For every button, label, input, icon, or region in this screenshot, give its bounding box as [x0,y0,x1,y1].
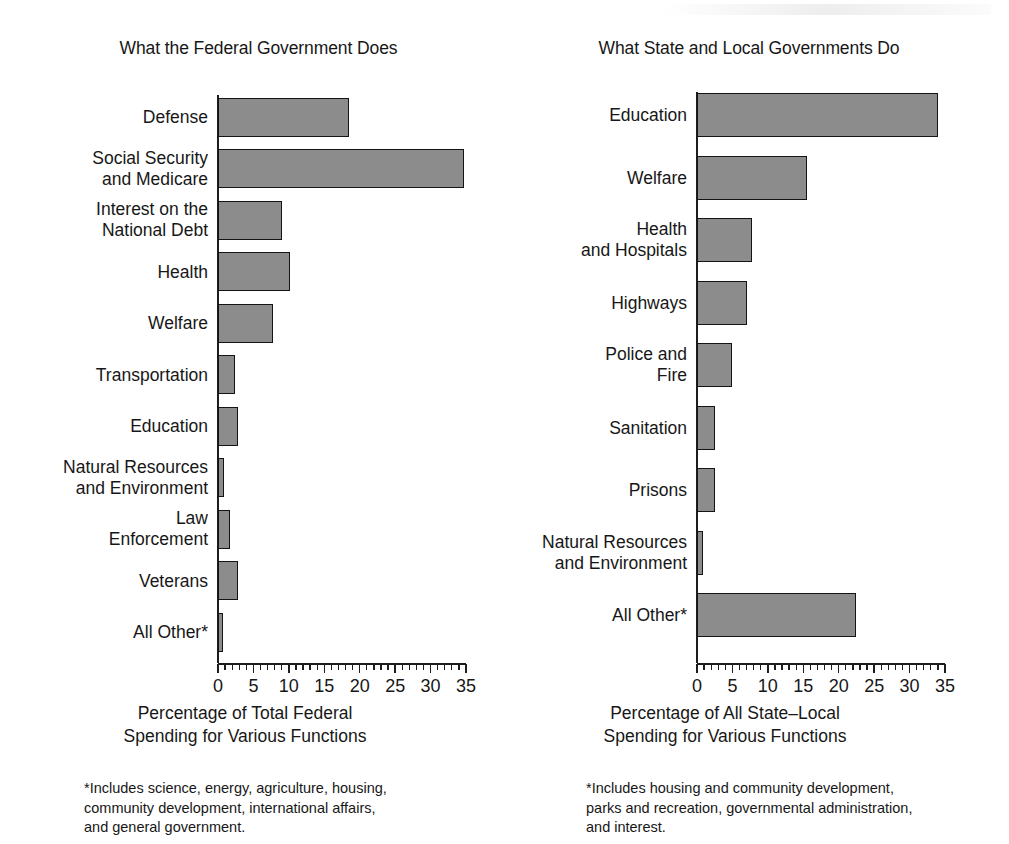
x-axis-minor-tick [444,664,445,670]
category-label: Prisons [437,480,687,501]
x-axis-minor-tick [817,664,818,670]
x-axis-tick-label: 5 [248,676,258,697]
x-axis-minor-tick [937,664,938,670]
bar [697,156,807,200]
x-axis-line [697,663,945,665]
federal-x-axis-title: Percentage of Total Federal Spending for… [60,702,430,748]
x-axis-major-tick [838,664,839,673]
x-axis-minor-tick [788,664,789,670]
bar [218,561,238,600]
category-label: Police and Fire [437,344,687,386]
x-axis-tick-label: 10 [758,676,778,697]
x-axis-minor-tick [416,664,417,670]
x-axis-major-tick [909,664,910,673]
category-label: Welfare [0,313,208,334]
bar [218,98,349,137]
x-axis-tick-label: 20 [829,676,849,697]
x-axis-minor-tick [366,664,367,670]
bar [697,531,703,575]
x-axis-line [218,663,466,665]
x-axis-major-tick [217,664,218,673]
x-axis-minor-tick [902,664,903,670]
x-axis-tick-label: 5 [727,676,737,697]
x-axis-minor-tick [380,664,381,670]
x-axis-minor-tick [409,664,410,670]
x-axis-minor-tick [703,664,704,670]
x-axis-minor-tick [274,664,275,670]
bar [218,510,230,549]
x-axis-minor-tick [295,664,296,670]
x-axis-minor-tick [718,664,719,670]
bar [218,304,273,343]
x-axis-minor-tick [352,664,353,670]
bar [218,355,235,394]
bar [218,201,282,240]
bar [697,218,752,262]
x-axis-tick-label: 30 [900,676,920,697]
category-label: Health [0,261,208,282]
category-label: Defense [0,107,208,128]
x-axis-minor-tick [796,664,797,670]
x-axis-tick-label: 30 [421,676,441,697]
federal-spending-panel: What the Federal Government Does 0510152… [0,0,505,844]
x-axis-tick-label: 25 [864,676,884,697]
x-axis-minor-tick [781,664,782,670]
category-label: All Other* [437,605,687,626]
x-axis-minor-tick [232,664,233,670]
bar [697,593,856,637]
bar [218,613,223,652]
x-axis-minor-tick [387,664,388,670]
category-label: Social Security and Medicare [0,148,208,190]
x-axis-major-tick [359,664,360,673]
bar [218,407,238,446]
x-axis-major-tick [430,664,431,673]
bar [218,458,224,497]
bar [697,343,732,387]
x-axis-minor-tick [224,664,225,670]
x-axis-minor-tick [451,664,452,670]
x-axis-minor-tick [852,664,853,670]
x-axis-minor-tick [881,664,882,670]
x-axis-minor-tick [845,664,846,670]
x-axis-minor-tick [437,664,438,670]
x-axis-minor-tick [895,664,896,670]
bar [218,252,290,291]
x-axis-major-tick [253,664,254,673]
x-axis-minor-tick [458,664,459,670]
bar [697,93,938,137]
x-axis-minor-tick [888,664,889,670]
bar [697,406,715,450]
category-label: Natural Resources and Environment [437,532,687,574]
x-axis-tick-label: 35 [935,676,955,697]
x-axis-minor-tick [345,664,346,670]
x-axis-minor-tick [725,664,726,670]
x-axis-minor-tick [281,664,282,670]
x-axis-minor-tick [923,664,924,670]
x-axis-minor-tick [831,664,832,670]
category-label: Law Enforcement [0,508,208,550]
x-axis-minor-tick [866,664,867,670]
category-label: Welfare [437,167,687,188]
x-axis-minor-tick [810,664,811,670]
bar [697,468,715,512]
x-axis-minor-tick [824,664,825,670]
x-axis-minor-tick [739,664,740,670]
state-local-footnote: *Includes housing and community developm… [586,779,1006,838]
chart-page: What the Federal Government Does 0510152… [0,0,1009,844]
state-local-x-axis-title: Percentage of All State–Local Spending f… [540,702,910,748]
x-axis-minor-tick [373,664,374,670]
x-axis-minor-tick [267,664,268,670]
category-label: Natural Resources and Environment [0,457,208,499]
federal-footnote: *Includes science, energy, agriculture, … [84,779,504,838]
x-axis-major-tick [394,664,395,673]
bar [697,281,747,325]
x-axis-major-tick [944,664,945,673]
x-axis-tick-label: 0 [692,676,702,697]
category-label: All Other* [0,622,208,643]
category-label: Sanitation [437,417,687,438]
x-axis-major-tick [324,664,325,673]
x-axis-minor-tick [402,664,403,670]
x-axis-minor-tick [711,664,712,670]
x-axis-major-tick [873,664,874,673]
category-label: Veterans [0,570,208,591]
